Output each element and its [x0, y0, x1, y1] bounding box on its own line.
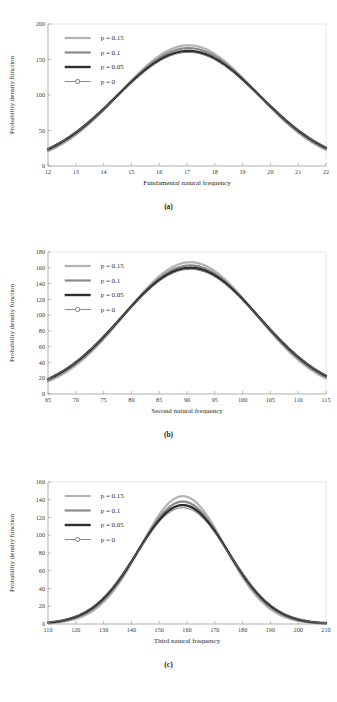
svg-text:65: 65 [45, 396, 51, 403]
svg-text:14: 14 [101, 168, 107, 175]
svg-text:200: 200 [36, 20, 45, 27]
svg-text:20: 20 [267, 168, 273, 175]
svg-text:13: 13 [73, 168, 79, 175]
svg-text:60: 60 [39, 343, 45, 350]
svg-text:140: 140 [127, 626, 136, 633]
chart-b: 6570758085909510010511011502040608010012… [0, 242, 337, 428]
svg-text:80: 80 [39, 549, 45, 556]
svg-text:Fundamental natural frequency: Fundamental natural frequency [143, 179, 231, 187]
svg-text:160: 160 [36, 264, 45, 271]
svg-text:Probability density function: Probability density function [8, 283, 16, 362]
svg-text:50: 50 [39, 127, 45, 134]
svg-text:160: 160 [182, 626, 191, 633]
svg-text:p = 0: p = 0 [101, 536, 116, 544]
panel-label-a: (a) [0, 202, 337, 211]
figure-page: 1213141516171819202122050100150200Fundam… [0, 0, 337, 702]
svg-text:110: 110 [294, 396, 303, 403]
svg-text:p = 0: p = 0 [101, 306, 116, 314]
svg-text:140: 140 [36, 496, 45, 503]
svg-text:150: 150 [36, 56, 45, 63]
svg-text:0: 0 [42, 620, 45, 627]
svg-text:22: 22 [323, 168, 329, 175]
svg-text:60: 60 [39, 567, 45, 574]
page-footer-faint-text [0, 695, 337, 702]
svg-text:40: 40 [39, 585, 45, 592]
svg-text:20: 20 [39, 602, 45, 609]
svg-text:105: 105 [266, 396, 275, 403]
page-header-faint-text [0, 0, 337, 9]
svg-text:20: 20 [39, 374, 45, 381]
plot-area-a: 1213141516171819202122050100150200Fundam… [0, 14, 337, 200]
svg-text:p = 0.15: p = 0.15 [101, 492, 125, 500]
plot-area-c: 1101201301401501601701801902002100204060… [0, 472, 337, 658]
svg-text:170: 170 [210, 626, 219, 633]
svg-text:120: 120 [36, 514, 45, 521]
svg-text:80: 80 [128, 396, 134, 403]
svg-text:17: 17 [184, 168, 190, 175]
svg-text:130: 130 [99, 626, 108, 633]
svg-text:12: 12 [45, 168, 51, 175]
chart-c: 1101201301401501601701801902002100204060… [0, 472, 337, 658]
svg-text:40: 40 [39, 359, 45, 366]
svg-text:140: 140 [36, 280, 45, 287]
svg-text:100: 100 [36, 311, 45, 318]
svg-text:100: 100 [36, 91, 45, 98]
svg-text:115: 115 [321, 396, 330, 403]
svg-text:0: 0 [42, 162, 45, 169]
svg-text:180: 180 [36, 248, 45, 255]
svg-text:p = 0.1: p = 0.1 [101, 277, 121, 285]
svg-text:p = 0.1: p = 0.1 [101, 49, 121, 57]
svg-text:19: 19 [240, 168, 246, 175]
svg-text:200: 200 [294, 626, 303, 633]
panel-label-c: (c) [0, 660, 337, 669]
figure-b: 6570758085909510010511011502040608010012… [0, 242, 337, 454]
svg-text:120: 120 [36, 296, 45, 303]
svg-text:Probability density function: Probability density function [8, 513, 16, 592]
svg-text:p = 0.1: p = 0.1 [101, 507, 121, 515]
svg-text:Third natural frequency: Third natural frequency [154, 637, 221, 645]
svg-text:p = 0.15: p = 0.15 [101, 262, 125, 270]
svg-text:100: 100 [36, 531, 45, 538]
svg-text:160: 160 [36, 478, 45, 485]
svg-text:16: 16 [156, 168, 162, 175]
svg-text:120: 120 [71, 626, 80, 633]
svg-text:70: 70 [73, 396, 79, 403]
svg-text:21: 21 [295, 168, 301, 175]
figure-a: 1213141516171819202122050100150200Fundam… [0, 14, 337, 226]
svg-text:85: 85 [156, 396, 162, 403]
svg-text:90: 90 [184, 396, 190, 403]
svg-text:100: 100 [238, 396, 247, 403]
svg-text:150: 150 [155, 626, 164, 633]
svg-text:Probability density function: Probability density function [8, 55, 16, 134]
svg-text:180: 180 [238, 626, 247, 633]
svg-text:Second natural frequency: Second natural frequency [151, 407, 223, 415]
svg-text:p = 0.05: p = 0.05 [101, 63, 125, 71]
svg-text:80: 80 [39, 327, 45, 334]
panel-label-b: (b) [0, 430, 337, 439]
svg-text:18: 18 [212, 168, 218, 175]
svg-text:15: 15 [128, 168, 134, 175]
svg-text:p = 0.05: p = 0.05 [101, 521, 125, 529]
svg-text:p = 0.05: p = 0.05 [101, 291, 125, 299]
svg-text:190: 190 [266, 626, 275, 633]
svg-text:p = 0: p = 0 [101, 78, 116, 86]
svg-text:210: 210 [321, 626, 330, 633]
svg-text:95: 95 [212, 396, 218, 403]
svg-text:75: 75 [101, 396, 107, 403]
chart-a: 1213141516171819202122050100150200Fundam… [0, 14, 337, 200]
plot-area-b: 6570758085909510010511011502040608010012… [0, 242, 337, 428]
svg-text:0: 0 [42, 390, 45, 397]
figure-c: 1101201301401501601701801902002100204060… [0, 472, 337, 690]
svg-text:p = 0.15: p = 0.15 [101, 34, 125, 42]
